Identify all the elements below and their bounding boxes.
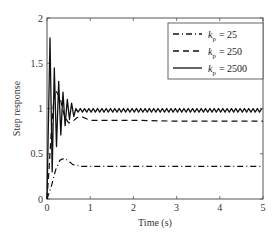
curve-dashed — [47, 90, 263, 199]
legend-subscript: p — [212, 35, 216, 43]
legend-subscript: p — [212, 69, 216, 77]
step-response-chart: 01234500.511.52Time (s)Step response kp=… — [0, 0, 277, 242]
legend-subscript: p — [212, 52, 216, 60]
x-tick-label: 3 — [174, 202, 179, 213]
y-tick-label: 0 — [38, 194, 43, 205]
legend: kp= 25kp= 250kp= 2500 — [168, 23, 263, 79]
x-tick-label: 5 — [261, 202, 266, 213]
curve-dash-dot — [47, 158, 263, 199]
x-axis-label: Time (s) — [138, 217, 172, 229]
legend-value: = 250 — [219, 46, 242, 57]
y-tick-label: 1.5 — [31, 58, 44, 69]
legend-value: = 25 — [219, 29, 237, 40]
legend-value: = 2500 — [219, 63, 247, 74]
y-tick-label: 2 — [38, 13, 43, 24]
x-tick-label: 2 — [131, 202, 136, 213]
x-tick-label: 0 — [45, 202, 50, 213]
y-tick-label: 0.5 — [31, 148, 44, 159]
x-tick-label: 1 — [88, 202, 93, 213]
x-tick-label: 4 — [217, 202, 222, 213]
y-axis-label: Step response — [11, 80, 22, 136]
y-tick-label: 1 — [38, 103, 43, 114]
